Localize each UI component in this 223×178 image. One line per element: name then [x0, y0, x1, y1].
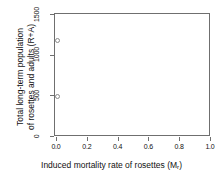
x-axis-tick-label: 0.8 [166, 143, 192, 150]
x-axis-tick [210, 137, 211, 141]
x-axis-tick-label: 0.4 [105, 143, 131, 150]
x-axis-tick [118, 137, 119, 141]
x-axis-tick [148, 137, 149, 141]
x-axis-title-close: ) [179, 160, 182, 170]
x-axis-title-main: Induced mortality rate of rosettes (M [41, 160, 177, 170]
x-axis-tick [179, 137, 180, 141]
x-axis-tick-label: 1.0 [197, 143, 223, 150]
y-axis-title-line2: of rosettes and adults (R+A) [26, 2, 37, 152]
x-axis-tick-label: 0.6 [135, 143, 161, 150]
y-axis-title-line1: Total long-term population [15, 2, 26, 152]
y-axis-tick [50, 14, 54, 15]
x-axis-tick [87, 137, 88, 141]
y-axis-title: Total long-term population of rosettes a… [15, 2, 37, 152]
x-axis-tick-label: 0.0 [43, 143, 69, 150]
x-axis-title: Induced mortality rate of rosettes (Mr) [0, 160, 223, 172]
y-axis-tick [50, 136, 54, 137]
scatter-plot-figure: 050010001500 0.00.20.40.60.81.0 Total lo… [0, 0, 223, 178]
x-axis-tick-label: 0.2 [74, 143, 100, 150]
y-axis-tick [50, 55, 54, 56]
y-axis-tick [50, 95, 54, 96]
x-axis-tick [56, 137, 57, 141]
plot-area [54, 13, 210, 136]
